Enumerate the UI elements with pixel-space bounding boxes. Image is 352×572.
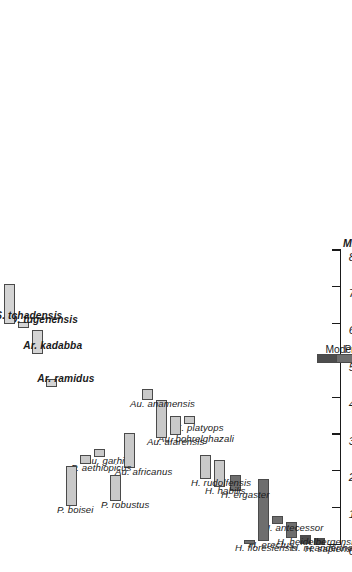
bar-p-boisei[interactable] [66,466,77,506]
bar-label-h-floresiensis: H. floresiensis [235,543,297,553]
bar-label-k-platyops: K. platyops [175,423,224,433]
axis-tick [332,323,341,324]
bar-au-bohrelghazali[interactable] [170,416,181,434]
axis-tick [332,507,341,508]
axis-tick [332,433,341,434]
legend-swatch-1 [336,354,352,363]
bar-label-ar-ramidus: Ar. ramidus [37,373,94,384]
bar-p-robustus[interactable] [110,475,121,501]
legend-label-1: Premodern Homo [345,344,352,355]
hominin-timeline-chart: 012345678 Millions of Years Ago H. sapie… [0,0,352,572]
axis-tick [332,286,341,287]
axis-tick [332,470,341,471]
bar-label-p-aethiopicus: P. aethiopicus [71,463,131,473]
bar-label-au-anamensis: Au. anamensis [130,399,195,409]
bar-label-p-robustus: P. robustus [101,500,149,510]
axis-title: Millions of Years Ago [343,237,352,249]
axis-tick [332,249,341,250]
bar-label-h-rudolfensis: H. rudolfensis [191,478,251,488]
bar-label-s-tchadensis: S. tchadensis [0,311,62,322]
bar-label-p-boisei: P. boisei [57,505,93,515]
plot-area: 012345678 Millions of Years Ago H. sapie… [11,25,341,545]
bar-label-ar-kadabba: Ar. kadabba [23,340,82,351]
bar-label-au-afarensis: Au. afarensis [147,437,204,447]
bar-h-rudolfensis[interactable] [200,455,211,479]
axis-tick [332,397,341,398]
bar-label-h-antecessor: H. antecessor [263,523,324,533]
